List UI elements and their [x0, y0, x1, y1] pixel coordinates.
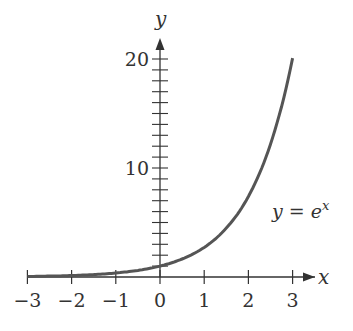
y-axis-label: y	[154, 7, 167, 31]
y-tick-label: 10	[125, 157, 149, 179]
x-tick-label: 3	[287, 289, 299, 311]
y-axis-arrow-icon	[156, 38, 165, 50]
x-tick-label: 1	[198, 289, 210, 311]
axes	[27, 38, 315, 284]
x-tick-label: −1	[102, 289, 130, 311]
curve-equation-label: y = ex	[271, 198, 330, 222]
x-tick-label: 0	[154, 289, 166, 311]
x-tick-labels: −3−2−10123	[13, 289, 298, 311]
x-tick-label: −3	[13, 289, 41, 311]
exponential-chart: −3−2−10123 1020 x y y = ex	[0, 0, 353, 331]
y-tick-label: 20	[125, 48, 149, 70]
x-axis-label: x	[318, 265, 329, 289]
equation-superscript: x	[322, 198, 330, 213]
y-tick-labels: 1020	[125, 48, 149, 179]
x-tick-label: 2	[242, 289, 254, 311]
equation-prefix: y = e	[271, 200, 322, 222]
x-tick-label: −2	[58, 289, 86, 311]
x-axis-arrow-icon	[303, 273, 315, 282]
